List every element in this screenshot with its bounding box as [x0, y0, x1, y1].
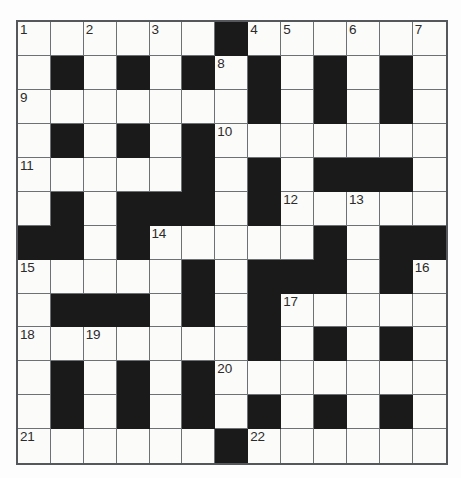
crossword-light-cell[interactable] [413, 56, 446, 90]
crossword-light-cell[interactable] [215, 395, 248, 429]
crossword-light-cell[interactable] [347, 294, 380, 328]
crossword-light-cell[interactable] [84, 395, 117, 429]
crossword-light-cell[interactable] [347, 260, 380, 294]
crossword-light-cell[interactable] [84, 192, 117, 226]
crossword-light-cell[interactable] [215, 192, 248, 226]
crossword-light-cell[interactable] [347, 124, 380, 158]
crossword-light-cell[interactable] [18, 294, 51, 328]
crossword-light-cell[interactable] [413, 361, 446, 395]
crossword-light-cell[interactable] [84, 226, 117, 260]
crossword-light-cell[interactable] [380, 361, 413, 395]
crossword-light-cell[interactable] [150, 158, 183, 192]
crossword-light-cell[interactable] [413, 395, 446, 429]
crossword-light-cell[interactable] [314, 22, 347, 56]
crossword-light-cell[interactable]: 7 [413, 22, 446, 56]
crossword-light-cell[interactable] [182, 429, 215, 463]
crossword-light-cell[interactable] [281, 90, 314, 124]
crossword-light-cell[interactable] [182, 90, 215, 124]
crossword-light-cell[interactable] [150, 361, 183, 395]
crossword-light-cell[interactable] [347, 226, 380, 260]
crossword-light-cell[interactable] [117, 90, 150, 124]
crossword-light-cell[interactable] [150, 294, 183, 328]
crossword-light-cell[interactable] [84, 361, 117, 395]
crossword-light-cell[interactable] [117, 327, 150, 361]
crossword-light-cell[interactable] [314, 294, 347, 328]
crossword-light-cell[interactable] [182, 327, 215, 361]
crossword-light-cell[interactable] [215, 226, 248, 260]
crossword-light-cell[interactable] [380, 192, 413, 226]
crossword-light-cell[interactable]: 18 [18, 327, 51, 361]
crossword-light-cell[interactable] [51, 22, 84, 56]
crossword-light-cell[interactable] [347, 429, 380, 463]
crossword-light-cell[interactable] [281, 124, 314, 158]
crossword-light-cell[interactable] [117, 22, 150, 56]
crossword-light-cell[interactable]: 22 [248, 429, 281, 463]
crossword-light-cell[interactable] [182, 22, 215, 56]
crossword-light-cell[interactable] [18, 56, 51, 90]
crossword-light-cell[interactable]: 17 [281, 294, 314, 328]
crossword-light-cell[interactable] [84, 158, 117, 192]
crossword-light-cell[interactable]: 5 [281, 22, 314, 56]
crossword-light-cell[interactable] [84, 56, 117, 90]
crossword-light-cell[interactable]: 3 [150, 22, 183, 56]
crossword-light-cell[interactable]: 13 [347, 192, 380, 226]
crossword-grid[interactable]: 12345678910111213141516171819202122 [16, 20, 448, 465]
crossword-light-cell[interactable] [380, 429, 413, 463]
crossword-light-cell[interactable] [84, 429, 117, 463]
crossword-light-cell[interactable]: 11 [18, 158, 51, 192]
crossword-light-cell[interactable]: 21 [18, 429, 51, 463]
crossword-light-cell[interactable] [117, 158, 150, 192]
crossword-light-cell[interactable] [150, 395, 183, 429]
crossword-light-cell[interactable] [51, 327, 84, 361]
crossword-light-cell[interactable] [84, 90, 117, 124]
crossword-light-cell[interactable]: 2 [84, 22, 117, 56]
crossword-light-cell[interactable] [51, 429, 84, 463]
crossword-light-cell[interactable] [84, 260, 117, 294]
crossword-light-cell[interactable] [18, 124, 51, 158]
crossword-light-cell[interactable] [18, 192, 51, 226]
crossword-light-cell[interactable] [347, 395, 380, 429]
crossword-light-cell[interactable]: 19 [84, 327, 117, 361]
crossword-light-cell[interactable] [51, 90, 84, 124]
crossword-light-cell[interactable] [347, 90, 380, 124]
crossword-light-cell[interactable]: 15 [18, 260, 51, 294]
crossword-light-cell[interactable] [248, 124, 281, 158]
crossword-light-cell[interactable] [314, 124, 347, 158]
crossword-light-cell[interactable] [314, 429, 347, 463]
crossword-light-cell[interactable] [215, 90, 248, 124]
crossword-light-cell[interactable]: 9 [18, 90, 51, 124]
crossword-light-cell[interactable]: 6 [347, 22, 380, 56]
crossword-light-cell[interactable] [215, 158, 248, 192]
crossword-light-cell[interactable] [215, 260, 248, 294]
crossword-light-cell[interactable] [413, 192, 446, 226]
crossword-light-cell[interactable]: 8 [215, 56, 248, 90]
crossword-light-cell[interactable] [281, 395, 314, 429]
crossword-light-cell[interactable] [314, 192, 347, 226]
crossword-light-cell[interactable] [182, 226, 215, 260]
crossword-light-cell[interactable]: 20 [215, 361, 248, 395]
crossword-light-cell[interactable] [413, 294, 446, 328]
crossword-light-cell[interactable] [117, 429, 150, 463]
crossword-light-cell[interactable] [150, 327, 183, 361]
crossword-light-cell[interactable] [413, 429, 446, 463]
crossword-light-cell[interactable] [248, 361, 281, 395]
crossword-light-cell[interactable] [314, 361, 347, 395]
crossword-light-cell[interactable] [380, 294, 413, 328]
crossword-light-cell[interactable] [413, 124, 446, 158]
crossword-light-cell[interactable] [281, 361, 314, 395]
crossword-light-cell[interactable] [281, 429, 314, 463]
crossword-light-cell[interactable] [347, 327, 380, 361]
crossword-light-cell[interactable] [18, 395, 51, 429]
crossword-light-cell[interactable]: 1 [18, 22, 51, 56]
crossword-light-cell[interactable] [413, 90, 446, 124]
crossword-light-cell[interactable] [380, 22, 413, 56]
crossword-light-cell[interactable] [215, 294, 248, 328]
crossword-light-cell[interactable] [281, 226, 314, 260]
crossword-light-cell[interactable] [84, 124, 117, 158]
crossword-light-cell[interactable] [150, 124, 183, 158]
crossword-light-cell[interactable] [150, 260, 183, 294]
crossword-light-cell[interactable] [150, 90, 183, 124]
crossword-light-cell[interactable] [18, 361, 51, 395]
crossword-light-cell[interactable] [347, 56, 380, 90]
crossword-light-cell[interactable]: 16 [413, 260, 446, 294]
